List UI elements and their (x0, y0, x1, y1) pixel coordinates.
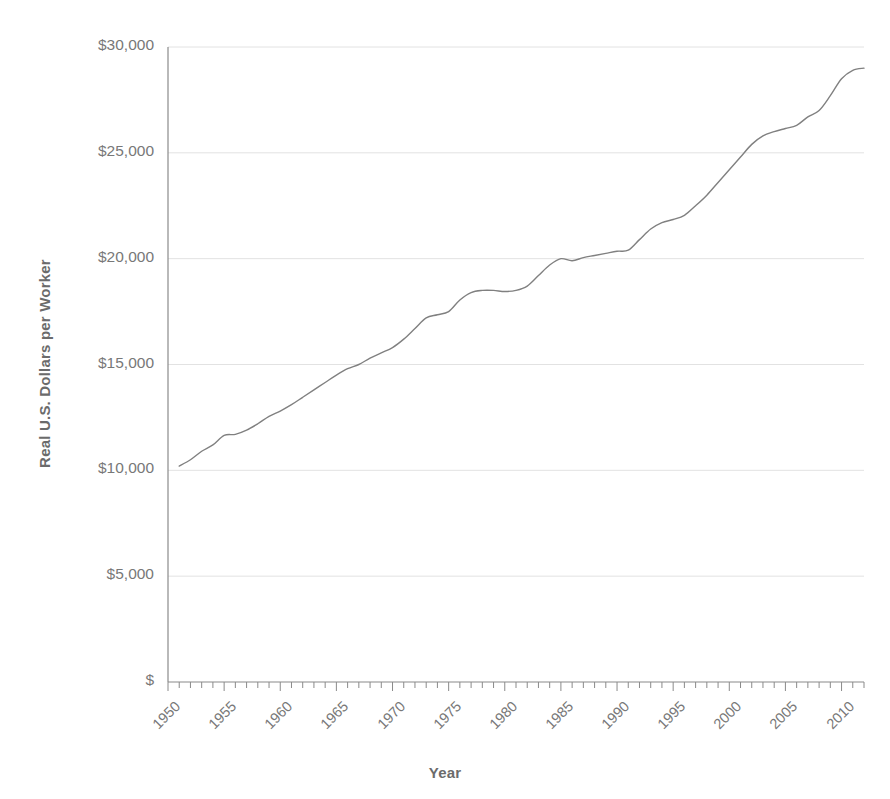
data-series-line (179, 68, 864, 466)
y-axis-title: Real U.S. Dollars per Worker (36, 234, 53, 494)
chart-figure: $30,000$25,000$20,000$15,000$10,000$5,00… (0, 0, 890, 799)
gridlines (168, 47, 864, 576)
line-chart-plot (0, 0, 890, 799)
x-axis-title: Year (0, 764, 890, 781)
x-axis-minor-ticks (168, 682, 864, 691)
